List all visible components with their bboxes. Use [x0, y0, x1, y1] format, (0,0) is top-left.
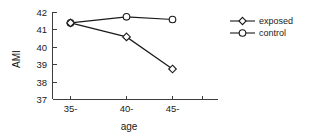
x-axis-title: age: [121, 121, 138, 132]
x-tick-label-35: 35-: [64, 103, 78, 114]
line-chart: 42 41 40 39 38 37 35- 40- 45- AMI age: [0, 0, 314, 136]
circle-marker-icon: [239, 30, 246, 37]
x-tick-label-45: 45-: [166, 103, 180, 114]
y-tick-label-40: 40: [36, 42, 47, 53]
y-tick-label-41: 41: [36, 24, 47, 35]
series-control-point: [123, 13, 130, 20]
y-tick-label-38: 38: [36, 77, 47, 88]
series-control-point: [169, 16, 176, 23]
y-tick-label-42: 42: [36, 7, 47, 18]
y-tick-label-39: 39: [36, 59, 47, 70]
legend-label-control: control: [259, 28, 286, 38]
legend-label-exposed: exposed: [259, 16, 293, 26]
chart-figure: 42 41 40 39 38 37 35- 40- 45- AMI age: [0, 0, 314, 136]
y-axis-title: AMI: [11, 50, 22, 68]
x-tick-label-40: 40-: [120, 103, 134, 114]
y-tick-label-37: 37: [36, 94, 47, 105]
